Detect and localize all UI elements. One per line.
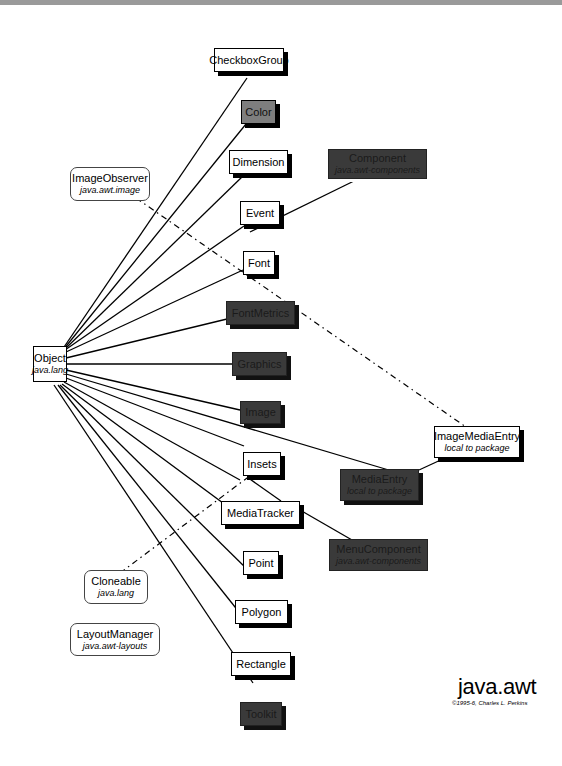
class-image[interactable]: Image <box>240 401 281 424</box>
node-name: MenuComponent <box>336 543 420 556</box>
node-name: Color <box>245 106 271 119</box>
class-dimension[interactable]: Dimension <box>229 150 288 174</box>
node-name: Rectangle <box>236 658 286 671</box>
node-package: java.lang <box>98 588 134 599</box>
node-package: java.awt-components <box>336 556 421 567</box>
class-toolkit[interactable]: Toolkit <box>240 702 282 726</box>
node-package: local to package <box>444 443 509 454</box>
class-component[interactable]: Component java.awt-components <box>328 149 427 179</box>
class-graphics[interactable]: Graphics <box>232 352 287 376</box>
class-event[interactable]: Event <box>240 201 280 225</box>
node-name: Event <box>246 207 274 220</box>
class-font[interactable]: Font <box>243 251 275 275</box>
node-name: Insets <box>247 458 276 471</box>
node-name: Polygon <box>242 606 282 619</box>
node-package: local to package <box>347 486 412 497</box>
node-package: java.lang <box>32 365 68 376</box>
node-name: Graphics <box>237 358 281 371</box>
node-package: java.awt-components <box>335 165 420 176</box>
node-name: Object <box>34 352 66 365</box>
class-insets[interactable]: Insets <box>243 452 281 476</box>
class-color[interactable]: Color <box>241 100 276 124</box>
node-name: FontMetrics <box>232 307 289 320</box>
diagram-title: java.awt <box>458 674 536 700</box>
node-name: Component <box>349 152 406 165</box>
node-package: java.awt-layouts <box>83 641 148 652</box>
node-name: Dimension <box>233 156 285 169</box>
class-menucomponent[interactable]: MenuComponent java.awt-components <box>329 539 428 571</box>
node-name: Point <box>248 557 273 570</box>
class-point[interactable]: Point <box>243 551 279 575</box>
node-name: LayoutManager <box>77 628 153 641</box>
node-name: Image <box>245 406 276 419</box>
class-polygon[interactable]: Polygon <box>235 600 288 624</box>
class-rectangle[interactable]: Rectangle <box>231 652 291 676</box>
node-name: ImageObserver <box>72 172 148 185</box>
interface-layoutmanager[interactable]: LayoutManager java.awt-layouts <box>70 623 160 656</box>
node-name: MediaEntry <box>352 473 408 486</box>
class-mediatracker[interactable]: MediaTracker <box>221 501 300 525</box>
object-node[interactable]: Object java.lang <box>33 346 67 382</box>
interface-cloneable[interactable]: Cloneable java.lang <box>84 570 148 604</box>
node-name: Toolkit <box>245 708 276 721</box>
class-fontmetrics[interactable]: FontMetrics <box>226 301 295 325</box>
node-name: Font <box>248 257 270 270</box>
node-package: java.awt.image <box>80 185 140 196</box>
node-name: Cloneable <box>91 575 141 588</box>
node-name: MediaTracker <box>227 507 294 520</box>
class-imagemediaentry[interactable]: ImageMediaEntry local to package <box>434 426 520 458</box>
class-mediaentry[interactable]: MediaEntry local to package <box>340 469 419 501</box>
copyright-notice: ©1995-6, Charles L. Perkins <box>452 700 527 706</box>
node-name: ImageMediaEntry <box>434 430 520 443</box>
class-checkboxgroup[interactable]: CheckboxGroup <box>214 48 284 72</box>
node-name: CheckboxGroup <box>209 54 289 67</box>
interface-imageobserver[interactable]: ImageObserver java.awt.image <box>70 167 150 201</box>
